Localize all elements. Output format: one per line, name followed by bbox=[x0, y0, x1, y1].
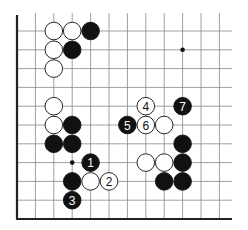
white-stone bbox=[45, 22, 63, 40]
black-stone bbox=[82, 22, 100, 40]
black-stone: 7 bbox=[174, 97, 192, 115]
white-stone bbox=[63, 22, 81, 40]
white-stone bbox=[45, 97, 63, 115]
move-number: 6 bbox=[142, 119, 149, 133]
stones: 1234756 bbox=[45, 22, 191, 209]
black-stone bbox=[174, 154, 192, 172]
black-stone bbox=[63, 116, 81, 134]
star-point bbox=[180, 48, 185, 53]
white-stone bbox=[82, 173, 100, 191]
move-number: 1 bbox=[87, 156, 94, 170]
black-stone: 1 bbox=[82, 154, 100, 172]
move-number: 3 bbox=[69, 194, 76, 208]
white-stone bbox=[155, 116, 173, 134]
black-stone bbox=[155, 173, 173, 191]
black-stone bbox=[63, 135, 81, 153]
black-stone bbox=[63, 173, 81, 191]
white-stone: 6 bbox=[137, 116, 155, 134]
white-stone: 4 bbox=[137, 97, 155, 115]
move-number: 2 bbox=[106, 175, 113, 189]
go-board: 1234756 bbox=[0, 0, 248, 230]
black-stone bbox=[45, 135, 63, 153]
star-point bbox=[70, 160, 75, 165]
move-number: 5 bbox=[124, 119, 131, 133]
white-stone bbox=[45, 116, 63, 134]
move-number: 4 bbox=[142, 100, 149, 114]
white-stone bbox=[155, 154, 173, 172]
black-stone bbox=[174, 135, 192, 153]
black-stone bbox=[174, 173, 192, 191]
move-number: 7 bbox=[179, 100, 186, 114]
black-stone bbox=[63, 41, 81, 59]
white-stone: 2 bbox=[100, 173, 118, 191]
black-stone: 5 bbox=[119, 116, 137, 134]
white-stone bbox=[45, 60, 63, 78]
black-stone: 3 bbox=[63, 191, 81, 209]
white-stone bbox=[45, 41, 63, 59]
white-stone bbox=[137, 154, 155, 172]
